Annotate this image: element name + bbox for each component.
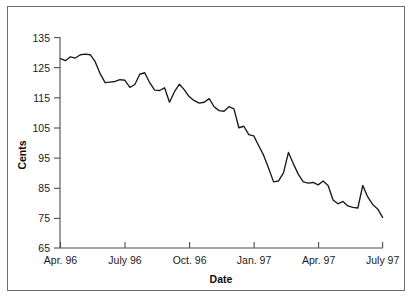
y-tick-label-95: 95 xyxy=(38,152,50,164)
y-tick-label-135: 135 xyxy=(32,32,50,44)
figure-container: 135 125 115 105 95 85 75 65 Apr. 96 July… xyxy=(0,0,413,305)
x-tick-label-oct-96: Oct. 96 xyxy=(173,254,207,266)
y-tick-labels: 135 125 115 105 95 85 75 65 xyxy=(32,32,50,254)
x-tick-marks xyxy=(61,242,383,248)
y-tick-label-85: 85 xyxy=(38,182,50,194)
y-tick-label-125: 125 xyxy=(32,62,50,74)
x-tick-labels: Apr. 96 July 96 Oct. 96 Jan. 97 Apr. 97 … xyxy=(44,254,400,266)
x-axis-title: Date xyxy=(210,273,233,285)
y-axis-title: Cents xyxy=(16,140,28,169)
axes-group xyxy=(60,37,383,248)
y-tick-label-75: 75 xyxy=(38,212,50,224)
y-tick-label-115: 115 xyxy=(33,92,50,104)
y-tick-label-105: 105 xyxy=(32,122,50,134)
y-tick-label-65: 65 xyxy=(38,242,50,254)
x-tick-label-july-96: July 96 xyxy=(108,254,141,266)
x-tick-label-july-97: July 97 xyxy=(366,254,399,266)
x-tick-label-apr-96: Apr. 96 xyxy=(44,254,77,266)
x-tick-label-jan-97: Jan. 97 xyxy=(237,254,272,266)
x-tick-label-apr-97: Apr. 97 xyxy=(302,254,335,266)
y-tick-marks xyxy=(54,38,60,248)
line-chart: 135 125 115 105 95 85 75 65 Apr. 96 July… xyxy=(0,0,413,305)
data-series-line xyxy=(61,54,383,217)
